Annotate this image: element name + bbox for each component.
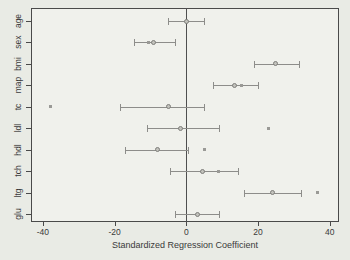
secondary-estimate-marker <box>147 41 150 44</box>
estimate-circle-marker <box>200 169 205 174</box>
x-axis-tick <box>43 222 44 226</box>
x-tick-label: 0 <box>173 227 199 237</box>
whisker-cap-left <box>170 168 171 175</box>
y-axis-tick <box>26 64 31 65</box>
secondary-estimate-marker <box>267 127 270 130</box>
whisker-cap-right <box>219 125 220 132</box>
y-axis-category-label: glu <box>13 199 23 229</box>
secondary-estimate-marker <box>49 105 52 108</box>
secondary-estimate-marker <box>217 170 220 173</box>
whisker-cap-right <box>299 61 300 68</box>
whisker-cap-left <box>175 211 176 218</box>
x-tick-label: -40 <box>30 227 56 237</box>
whisker-cap-right <box>219 211 220 218</box>
whisker-cap-left <box>134 39 135 46</box>
y-axis-tick <box>26 21 31 22</box>
confidence-interval-whisker <box>120 107 204 108</box>
whisker-cap-left <box>254 61 255 68</box>
whisker-cap-left <box>147 125 148 132</box>
zero-reference-line <box>186 8 187 222</box>
whisker-cap-right <box>301 190 302 197</box>
estimate-circle-marker <box>270 190 275 195</box>
y-axis-tick <box>26 150 31 151</box>
x-tick-label: 40 <box>317 227 343 237</box>
secondary-estimate-marker <box>316 191 319 194</box>
whisker-cap-right <box>204 104 205 111</box>
y-axis-tick <box>26 85 31 86</box>
secondary-estimate-marker <box>203 148 206 151</box>
y-axis-tick <box>26 42 31 43</box>
whisker-cap-left <box>125 147 126 154</box>
plot-area <box>31 8 339 222</box>
y-axis-tick <box>26 128 31 129</box>
secondary-estimate-marker <box>240 84 243 87</box>
estimate-circle-marker <box>195 212 200 217</box>
whisker-cap-right <box>204 18 205 25</box>
whisker-cap-left <box>244 190 245 197</box>
x-axis-tick <box>330 222 331 226</box>
whisker-cap-left <box>120 104 121 111</box>
x-axis-tick <box>258 222 259 226</box>
estimate-circle-marker <box>184 19 189 24</box>
whisker-cap-left <box>213 82 214 89</box>
x-tick-label: 20 <box>245 227 271 237</box>
x-axis-title: Standardized Regression Coefficient <box>31 240 339 250</box>
whisker-cap-right <box>188 147 189 154</box>
estimate-circle-marker <box>232 83 237 88</box>
whisker-cap-right <box>238 168 239 175</box>
scanned-chart-page: Standardized Regression Coefficient ages… <box>0 0 350 260</box>
y-axis-tick <box>26 107 31 108</box>
x-tick-label: -20 <box>102 227 128 237</box>
x-axis-tick <box>115 222 116 226</box>
x-axis-tick <box>186 222 187 226</box>
y-axis-tick <box>26 171 31 172</box>
whisker-cap-left <box>168 18 169 25</box>
y-axis-tick <box>26 214 31 215</box>
y-axis-tick <box>26 193 31 194</box>
whisker-cap-right <box>258 82 259 89</box>
whisker-cap-right <box>175 39 176 46</box>
